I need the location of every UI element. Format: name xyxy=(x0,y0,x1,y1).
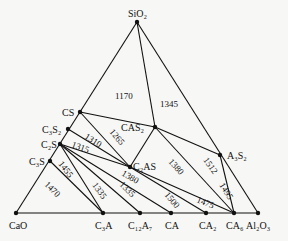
label-al2o3: Al₂O₃ xyxy=(246,220,270,231)
temp-1470: 1470 xyxy=(43,179,63,199)
label-ca2: CA₂ xyxy=(199,220,216,231)
label-c3a: C₃A xyxy=(95,220,113,231)
label-c2s: C₂S xyxy=(41,139,57,150)
temp-1380-b: 1380 xyxy=(167,157,187,177)
join-c2s-ca xyxy=(60,144,171,213)
join-c2as-ca6 xyxy=(130,167,234,213)
label-cs: CS xyxy=(62,107,74,118)
label-c3s2: C₃S₂ xyxy=(42,124,61,135)
label-ca: CA xyxy=(165,220,180,231)
ternary-diagram: SiO₂ CS C₃S₂ C₂S C₃S CAS₂ C₂AS A₃S₂ CaO … xyxy=(0,0,288,241)
label-cao: CaO xyxy=(9,220,27,231)
label-c12a7: C₁₂A₇ xyxy=(128,220,152,231)
label-a3s2: A₃S₂ xyxy=(227,150,247,161)
join-c2as-ca2 xyxy=(130,167,206,213)
temp-1500: 1500 xyxy=(162,190,182,211)
temp-1170: 1170 xyxy=(115,91,133,101)
edge-sio2-al2o3 xyxy=(137,22,258,213)
label-c3s: C₃S xyxy=(29,156,45,167)
label-sio2: SiO₂ xyxy=(128,8,147,19)
label-ca6: CA₆ xyxy=(226,220,244,231)
join-sio2-cas2 xyxy=(137,22,155,127)
join-c2s-c3a xyxy=(60,144,103,213)
label-cas2: CAS₂ xyxy=(121,122,144,133)
temp-1512: 1512 xyxy=(201,155,220,175)
label-c2as: C₂AS xyxy=(133,161,156,172)
join-cas2-a3s2 xyxy=(155,127,220,155)
temp-1345: 1345 xyxy=(160,99,179,109)
